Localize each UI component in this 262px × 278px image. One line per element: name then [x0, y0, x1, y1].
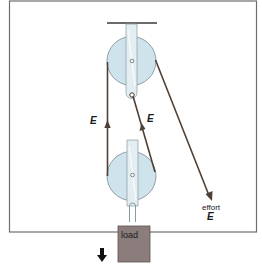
- fixed-pulley-axle: [130, 59, 134, 63]
- load-label: load: [121, 230, 138, 240]
- fixed-pulley: [107, 24, 156, 99]
- movable-pulley-axle: [131, 173, 135, 177]
- effort-symbol: E: [207, 211, 214, 222]
- arrow-up-left: [104, 120, 110, 128]
- tension-label-left: E: [90, 115, 97, 126]
- tension-label-right: E: [147, 113, 154, 124]
- down-arrow-icon: [97, 248, 107, 262]
- arrow-effort: [206, 191, 213, 201]
- rope-effort: [156, 60, 211, 198]
- pulley-diagram: E E effort E load: [0, 0, 262, 278]
